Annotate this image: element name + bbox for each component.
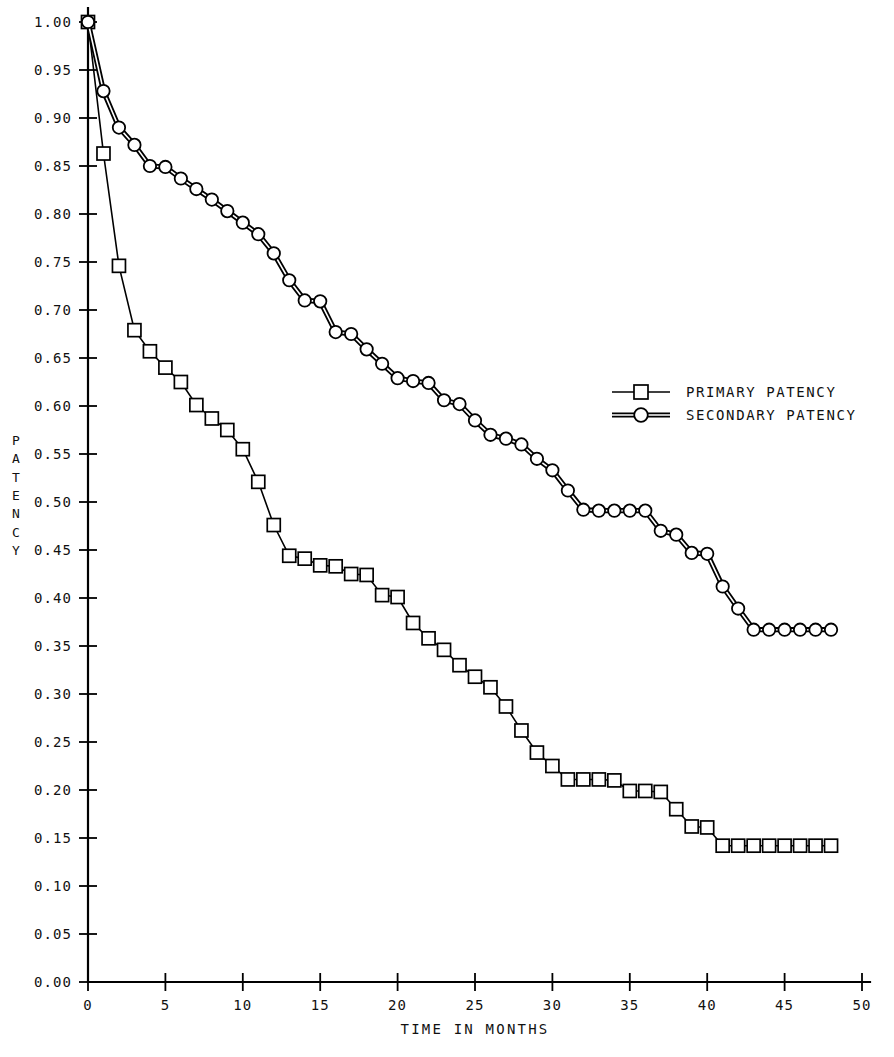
data-point-marker — [499, 700, 512, 713]
y-axis-title: PATENCY — [12, 433, 20, 558]
y-tick-label: 0.30 — [34, 686, 72, 702]
data-point-marker — [670, 528, 682, 540]
data-point-marker — [655, 525, 667, 537]
data-point-marker — [113, 121, 125, 133]
data-point-marker — [794, 839, 807, 852]
series-line — [88, 22, 831, 846]
y-tick-label: 0.60 — [34, 398, 72, 414]
data-point-marker — [484, 681, 497, 694]
y-axis-title-char: C — [12, 525, 20, 540]
data-point-marker — [144, 160, 156, 172]
x-tick-label: 35 — [620, 997, 639, 1013]
data-point-marker — [143, 345, 156, 358]
data-point-marker — [422, 632, 435, 645]
data-point-marker — [685, 820, 698, 833]
x-tick-label: 50 — [852, 997, 871, 1013]
y-tick-label: 0.05 — [34, 926, 72, 942]
data-point-marker — [391, 372, 403, 384]
x-tick-label: 40 — [698, 997, 717, 1013]
data-point-marker — [623, 784, 636, 797]
data-point-marker — [376, 589, 389, 602]
data-point-marker — [825, 839, 838, 852]
x-tick-label: 5 — [161, 997, 171, 1013]
data-point-marker — [747, 623, 759, 635]
data-point-marker — [391, 591, 404, 604]
data-point-marker — [686, 547, 698, 559]
y-tick-label: 0.10 — [34, 878, 72, 894]
y-axis-title-char: A — [12, 451, 20, 466]
data-point-marker — [268, 247, 280, 259]
data-point-marker — [360, 343, 372, 355]
data-point-marker — [500, 432, 512, 444]
x-axis-title: TIME IN MONTHS — [401, 1021, 550, 1037]
data-point-marker — [561, 773, 574, 786]
legend-marker — [634, 385, 648, 399]
data-point-marker — [345, 568, 358, 581]
data-point-marker — [97, 85, 109, 97]
y-axis-title-char: E — [12, 488, 20, 503]
data-point-marker — [639, 784, 652, 797]
data-point-marker — [329, 560, 342, 573]
data-point-marker — [112, 259, 125, 272]
data-point-marker — [453, 398, 465, 410]
data-point-marker — [716, 580, 728, 592]
data-point-marker — [530, 746, 543, 759]
data-point-marker — [298, 552, 311, 565]
data-point-marker — [515, 438, 527, 450]
data-point-marker — [469, 670, 482, 683]
x-tick-label: 45 — [775, 997, 794, 1013]
data-point-marker — [747, 839, 760, 852]
legend-label: SECONDARY PATENCY — [686, 407, 857, 423]
survival-curve-chart: 0.000.050.100.150.200.250.300.350.400.45… — [0, 0, 894, 1057]
data-point-marker — [407, 375, 419, 387]
data-point-marker — [794, 623, 806, 635]
y-tick-label: 0.20 — [34, 782, 72, 798]
data-point-marker — [267, 519, 280, 532]
data-point-marker — [329, 326, 341, 338]
data-point-marker — [236, 443, 249, 456]
data-point-marker — [732, 602, 744, 614]
data-point-marker — [825, 623, 837, 635]
data-point-marker — [128, 324, 141, 337]
y-tick-label: 0.45 — [34, 542, 72, 558]
data-point-marker — [577, 773, 590, 786]
x-tick-label: 0 — [83, 997, 93, 1013]
x-tick-label: 25 — [465, 997, 484, 1013]
data-point-marker — [593, 504, 605, 516]
legend-entry[interactable]: PRIMARY PATENCY — [612, 384, 836, 400]
y-tick-label: 0.50 — [34, 494, 72, 510]
data-point-marker — [716, 839, 729, 852]
data-point-marker — [438, 394, 450, 406]
series-line-inner — [88, 22, 831, 630]
y-tick-label: 0.75 — [34, 254, 72, 270]
data-point-marker — [763, 839, 776, 852]
y-tick-label: 0.90 — [34, 110, 72, 126]
series-line-outer — [88, 22, 831, 630]
plot-canvas: 0.000.050.100.150.200.250.300.350.400.45… — [0, 0, 894, 1057]
data-point-marker — [438, 643, 451, 656]
data-point-marker — [314, 295, 326, 307]
chart-legend: PRIMARY PATENCYSECONDARY PATENCY — [612, 384, 857, 423]
x-tick-label: 30 — [543, 997, 562, 1013]
data-point-marker — [701, 821, 714, 834]
data-point-marker — [205, 412, 218, 425]
y-tick-label: 0.55 — [34, 446, 72, 462]
y-axis-title-char: P — [12, 433, 20, 448]
legend-entry[interactable]: SECONDARY PATENCY — [612, 407, 857, 423]
data-point-marker — [159, 161, 171, 173]
data-point-marker — [283, 274, 295, 286]
data-point-marker — [809, 839, 822, 852]
data-point-marker — [546, 760, 559, 773]
data-point-marker — [608, 774, 621, 787]
data-point-marker — [82, 16, 94, 28]
data-series-group — [82, 16, 838, 853]
data-point-marker — [639, 504, 651, 516]
data-point-marker — [237, 216, 249, 228]
data-point-marker — [577, 503, 589, 515]
data-point-marker — [407, 616, 420, 629]
legend-marker — [634, 408, 648, 422]
data-point-marker — [252, 228, 264, 240]
x-tick-label: 20 — [388, 997, 407, 1013]
data-point-marker — [654, 785, 667, 798]
data-point-marker — [422, 377, 434, 389]
